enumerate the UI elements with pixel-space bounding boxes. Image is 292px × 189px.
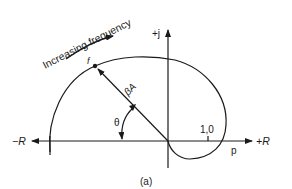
- negative-real-label: −R: [12, 135, 26, 147]
- frequency-point-label: f: [87, 56, 91, 66]
- positive-real-label: +R: [256, 135, 270, 147]
- angle-arc: [122, 108, 133, 139]
- positive-imag-label: +j: [152, 28, 160, 39]
- frequency-point-dot: [93, 64, 97, 68]
- angle-label: θ: [114, 117, 120, 128]
- figure-caption: (a): [140, 176, 152, 187]
- nyquist-curve: [50, 57, 226, 159]
- crossing-point-label: p: [231, 145, 237, 156]
- unit-point-label: 1,0: [200, 124, 214, 135]
- nyquist-diagram: Increasing frequency f βA θ −R +R +j 1,0…: [0, 0, 292, 189]
